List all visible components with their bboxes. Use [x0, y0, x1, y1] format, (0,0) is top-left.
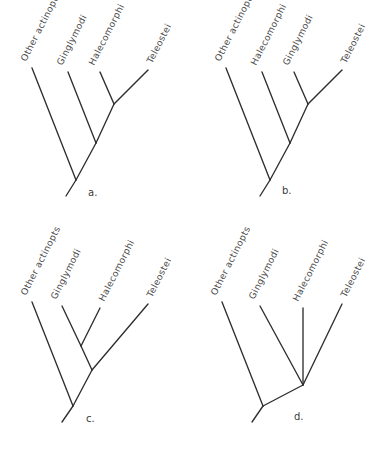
cladogram-panel-b: Other actinopts Halecomorphi Ginglymodi …	[190, 0, 380, 229]
branch-stem-root	[252, 406, 263, 422]
panel-c-branches	[32, 302, 148, 422]
tip-label-ginglymodi: Ginglymodi	[49, 247, 83, 301]
cladogram-panel-d: Other actinopts Ginglymodi Halecomorphi …	[190, 230, 380, 459]
branch-ginglymodi	[260, 306, 303, 385]
branch-node2-to-node3	[81, 346, 92, 370]
branch-halecomorphi	[81, 308, 100, 346]
branch-node-root-to-node2	[73, 370, 92, 406]
branch-teleostei	[114, 70, 148, 104]
panel-letter-a: a.	[88, 187, 97, 198]
branch-stem-root	[66, 180, 76, 196]
branch-node2-to-node3	[290, 104, 308, 143]
branch-node-root-to-node2	[76, 143, 96, 180]
panel-c-tip-labels: Other actinopts Ginglymodi Halecomorphi …	[19, 225, 173, 303]
tip-label-ginglymodi: Ginglymodi	[281, 13, 315, 67]
branch-stem-root	[260, 180, 270, 196]
branch-node-root-to-node2	[270, 143, 290, 180]
tip-label-halecomorphi: Halecomorphi	[97, 238, 137, 303]
panel-a-tip-labels: Other actinopts Ginglymodi Halecomorphi …	[19, 0, 173, 67]
branch-halecomorphi	[100, 72, 114, 104]
branch-other-actinopts	[32, 68, 76, 180]
branch-ginglymodi	[62, 306, 81, 346]
tip-label-teleostei: Teleostei	[338, 256, 367, 300]
branch-ginglymodi	[68, 72, 96, 143]
tip-label-halecomorphi: Halecomorphi	[87, 2, 127, 67]
tip-label-teleostei: Teleostei	[338, 22, 367, 66]
panel-letter-c: c.	[86, 413, 95, 424]
cladogram-panel-a: Other actinopts Ginglymodi Halecomorphi …	[0, 0, 190, 229]
panel-letter-d: d.	[294, 411, 304, 422]
tip-label-other-actinopts: Other actinopts	[209, 225, 252, 297]
tip-label-halecomorphi: Halecomorphi	[291, 238, 331, 303]
branch-teleostei	[303, 304, 342, 385]
panel-d-branches	[222, 302, 342, 422]
tip-label-ginglymodi: Ginglymodi	[55, 13, 89, 67]
panel-letter-b: b.	[282, 185, 292, 196]
branch-ginglymodi	[294, 72, 308, 104]
tip-label-teleostei: Teleostei	[144, 256, 173, 300]
panel-d-tip-labels: Other actinopts Ginglymodi Halecomorphi …	[209, 225, 367, 303]
cladogram-panel-c: Other actinopts Ginglymodi Halecomorphi …	[0, 230, 190, 459]
panel-b-branches	[226, 68, 342, 196]
branch-node2-to-node3	[96, 104, 114, 143]
branch-teleostei	[308, 70, 342, 104]
branch-halecomorphi	[262, 72, 290, 143]
cladogram-figure: Other actinopts Ginglymodi Halecomorphi …	[0, 0, 380, 459]
branch-other-actinopts	[222, 302, 263, 406]
tip-label-other-actinopts: Other actinopts	[213, 0, 256, 63]
tip-label-teleostei: Teleostei	[144, 22, 173, 66]
branch-teleostei	[92, 304, 148, 370]
branch-stem-root	[62, 406, 73, 422]
branch-node-root-to-polytomy	[263, 385, 303, 406]
panel-b-tip-labels: Other actinopts Halecomorphi Ginglymodi …	[213, 0, 367, 67]
branch-other-actinopts	[226, 68, 270, 180]
tip-label-other-actinopts: Other actinopts	[19, 0, 62, 63]
tip-label-ginglymodi: Ginglymodi	[247, 247, 281, 301]
panel-a-branches	[32, 68, 148, 196]
